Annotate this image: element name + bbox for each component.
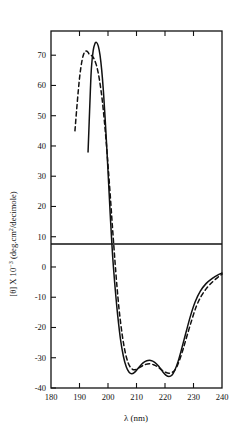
x-tick-label: 180 bbox=[45, 392, 58, 402]
y-tick-label: 60 bbox=[38, 80, 47, 90]
x-tick-label: 190 bbox=[73, 392, 86, 402]
y-tick-label: 40 bbox=[38, 141, 47, 151]
y-tick-label: -30 bbox=[35, 353, 46, 363]
x-axis-ticks: 180190200210220230240 bbox=[45, 31, 229, 402]
y-axis-ticks: 706050403020100-10-20-30-40 bbox=[35, 50, 56, 393]
y-tick-label: 10 bbox=[38, 232, 47, 242]
x-tick-label: 210 bbox=[130, 392, 143, 402]
x-tick-label: 240 bbox=[216, 392, 229, 402]
x-tick-label: 230 bbox=[187, 392, 200, 402]
chart-canvas: 706050403020100-10-20-30-40 180190200210… bbox=[0, 0, 235, 446]
x-tick-label: 220 bbox=[159, 392, 172, 402]
y-axis-label-tail: /decimole) bbox=[8, 191, 18, 228]
y-tick-label: -20 bbox=[35, 322, 46, 332]
y-axis-label-suffix: (deg.cm bbox=[8, 231, 18, 261]
x-axis-label: λ (nm) bbox=[124, 413, 148, 423]
svg-text:[θ] X 10−3 (deg.cm2/decimole): [θ] X 10−3 (deg.cm2/decimole) bbox=[7, 191, 18, 297]
cd-spectrum-figure: 706050403020100-10-20-30-40 180190200210… bbox=[0, 0, 235, 446]
y-tick-label: 20 bbox=[38, 201, 47, 211]
y-tick-label: 50 bbox=[38, 111, 47, 121]
x-tick-label: 200 bbox=[102, 392, 115, 402]
plot-frame bbox=[51, 31, 222, 388]
y-axis-label-prefix: [θ] X 10 bbox=[8, 268, 18, 297]
series-dashed-curve bbox=[75, 51, 222, 373]
y-tick-label: 70 bbox=[38, 50, 47, 60]
y-tick-label: 0 bbox=[42, 262, 46, 272]
series-solid-curve bbox=[88, 42, 222, 376]
y-axis-label: [θ] X 10−3 (deg.cm2/decimole) bbox=[7, 191, 18, 297]
y-tick-label: -10 bbox=[35, 292, 46, 302]
y-tick-label: 30 bbox=[38, 171, 47, 181]
